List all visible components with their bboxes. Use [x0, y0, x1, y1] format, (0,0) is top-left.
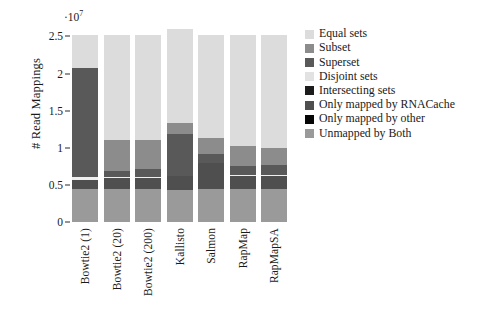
bar-column — [167, 29, 193, 222]
bar-segment — [104, 140, 130, 170]
bar-segment — [135, 35, 161, 140]
legend-swatch-icon — [305, 58, 314, 67]
y-axis-tick-label: 0.5 — [49, 179, 72, 191]
x-axis-tick-label-text: Salmon — [205, 228, 217, 264]
bar-segment — [261, 35, 287, 148]
x-axis-tick-label: Bowtie2 (200) — [135, 224, 161, 310]
y-axis-tick-label: 0 — [57, 216, 72, 228]
bar-segment — [104, 35, 130, 140]
legend-item-label: Unmapped by Both — [319, 128, 411, 140]
legend-item: Disjoint sets — [305, 70, 480, 84]
bar-segment — [72, 180, 98, 190]
x-axis-tick-label-text: RapMapSA — [268, 228, 280, 283]
y-axis-multiplier-base: ·10 — [64, 11, 79, 23]
bar-column — [72, 29, 98, 222]
legend-item: Unmapped by Both — [305, 126, 480, 140]
x-axis-tick-label: RapMap — [230, 224, 256, 310]
x-axis-tick-label-text: Bowtie2 (20) — [111, 228, 123, 290]
x-axis-ticks: Bowtie2 (1)Bowtie2 (20)Bowtie2 (200)Kall… — [72, 224, 287, 310]
bar-segment — [198, 138, 224, 154]
legend-item-label: Disjoint sets — [319, 71, 378, 83]
y-axis-tick-mark — [65, 36, 70, 37]
plot-area: 00.511.522.5 — [72, 29, 287, 222]
y-axis-tick-mark — [65, 110, 70, 111]
y-axis-title: # Read Mappings — [29, 24, 44, 184]
bar-segment — [261, 165, 287, 175]
bar-column — [198, 29, 224, 222]
legend-swatch-icon — [305, 115, 314, 124]
chart-figure: # Read Mappings ·107 00.511.522.5 Bowtie… — [0, 0, 485, 311]
legend-item-label: Only mapped by RNACache — [319, 99, 455, 111]
bar-segment — [230, 166, 256, 175]
bar-segment — [261, 148, 287, 165]
bar-segment — [167, 176, 193, 189]
bar-segment — [72, 189, 98, 222]
bar-segment — [261, 189, 287, 222]
bar-segment — [198, 35, 224, 138]
bar-segment — [135, 178, 161, 189]
legend-swatch-icon — [305, 101, 314, 110]
bar-segment — [104, 189, 130, 222]
bar-segment — [198, 163, 224, 190]
legend-swatch-icon — [305, 72, 314, 81]
legend-swatch-icon — [305, 86, 314, 95]
y-axis-multiplier: ·107 — [64, 11, 83, 23]
y-axis-tick-mark — [65, 147, 70, 148]
y-axis-tick-mark — [65, 184, 70, 185]
x-axis-tick-label-text: Bowtie2 (200) — [142, 228, 154, 296]
bar-segment — [104, 178, 130, 189]
bar-segment — [167, 190, 193, 222]
bar-column — [104, 29, 130, 222]
y-axis-tick-label: 1.5 — [49, 105, 72, 117]
bar-segment — [198, 154, 224, 162]
bar-segment — [135, 169, 161, 176]
x-axis-tick-label-text: RapMap — [237, 228, 249, 268]
bar-segment — [72, 35, 98, 68]
bar-segment — [198, 189, 224, 222]
legend-swatch-icon — [305, 30, 314, 39]
y-axis-tick-mark — [65, 73, 70, 74]
bar-segment — [72, 68, 98, 177]
x-axis-tick-label: Salmon — [198, 224, 224, 310]
chart-legend: Equal setsSubsetSupersetDisjoint setsInt… — [305, 27, 480, 141]
legend-swatch-icon — [305, 44, 314, 53]
bar-segment — [167, 29, 193, 123]
x-axis-tick-label-text: Kallisto — [174, 228, 186, 265]
legend-item-label: Subset — [319, 42, 350, 54]
x-axis-tick-label: RapMapSA — [261, 224, 287, 310]
y-axis-tick-label: 2.5 — [49, 30, 72, 42]
legend-item: Equal sets — [305, 27, 480, 41]
legend-swatch-icon — [305, 129, 314, 138]
bar-column — [135, 29, 161, 222]
legend-item: Only mapped by other — [305, 112, 480, 126]
bar-segment — [167, 134, 193, 176]
x-axis-tick-label: Kallisto — [167, 224, 193, 310]
legend-item-label: Only mapped by other — [319, 113, 425, 125]
bar-segment — [230, 146, 256, 165]
bar-column — [261, 29, 287, 222]
bar-segment — [230, 189, 256, 222]
y-axis-multiplier-exponent: 7 — [79, 9, 83, 18]
bar-segment — [167, 123, 193, 135]
bar-segment — [261, 176, 287, 189]
legend-item-label: Intersecting sets — [319, 85, 395, 97]
legend-item: Only mapped by RNACache — [305, 98, 480, 112]
legend-item: Intersecting sets — [305, 84, 480, 98]
x-axis-tick-label-text: Bowtie2 (1) — [79, 228, 91, 284]
legend-item-label: Equal sets — [319, 28, 367, 40]
bar-segment — [230, 176, 256, 189]
legend-item: Subset — [305, 41, 480, 55]
bar-segment — [230, 35, 256, 146]
legend-item-label: Superset — [319, 57, 360, 69]
bar-column — [230, 29, 256, 222]
bar-segment — [135, 189, 161, 222]
y-axis-tick-label: 1 — [57, 142, 72, 154]
bar-group — [72, 29, 287, 222]
x-axis-tick-label: Bowtie2 (20) — [104, 224, 130, 310]
bar-segment — [135, 140, 161, 169]
x-axis-tick-label: Bowtie2 (1) — [72, 224, 98, 310]
y-axis-tick-label: 2 — [57, 68, 72, 80]
y-axis-tick-mark — [65, 222, 70, 223]
legend-item: Superset — [305, 55, 480, 69]
